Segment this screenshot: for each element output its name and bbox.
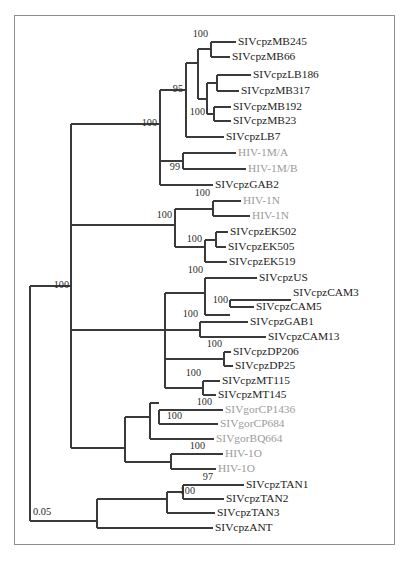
bootstrap-support-value: 100	[186, 367, 201, 378]
tip-label-layer: SIVcpzMB245SIVcpzMB66SIVcpzLB186SIVcpzMB…	[215, 35, 359, 533]
bootstrap-support-value: 100	[213, 294, 228, 305]
taxon-label: SIVcpzMB317	[241, 84, 310, 96]
taxon-label: SIVcpzEK502	[230, 225, 297, 237]
bootstrap-support-value: 100	[167, 410, 182, 421]
bootstrap-support-value: 100	[190, 106, 205, 117]
taxon-label: SIVcpzDP25	[235, 359, 295, 371]
taxon-label: SIVcpzTAN2	[226, 492, 289, 504]
bootstrap-support-value: 100	[188, 264, 203, 275]
bootstrap-support-value: 100	[190, 440, 205, 451]
taxon-label: SIVcpzANT	[215, 521, 273, 533]
bootstrap-support-value: 99	[170, 161, 180, 172]
taxon-label: SIVcpzCAM5	[256, 300, 322, 312]
bootstrap-support-value: 100	[157, 209, 172, 220]
bootstrap-support-value: 100	[195, 187, 210, 198]
bootstrap-support-value: 97	[203, 471, 213, 482]
taxon-label: SIVcpzGAB2	[215, 178, 279, 190]
taxon-label: SIVcpzMB23	[233, 114, 297, 126]
taxon-label: SIVcpzDP206	[233, 345, 299, 357]
taxon-label: SIVcpzTAN3	[217, 506, 280, 518]
taxon-label: SIVcpzCAM3	[293, 286, 359, 298]
tree-canvas: SIVcpzMB245SIVcpzMB66SIVcpzLB186SIVcpzMB…	[0, 0, 410, 561]
bootstrap-support-value: 100	[193, 28, 208, 39]
bootstrap-support-value: 95	[173, 83, 183, 94]
bootstrap-support-value: 100	[197, 396, 212, 407]
bootstrap-support-value: 100	[183, 308, 198, 319]
taxon-label: SIVcpzMT115	[222, 374, 290, 386]
taxon-label: SIVcpzMB192	[233, 100, 302, 112]
phylogenetic-tree-figure: SIVcpzMB245SIVcpzMB66SIVcpzLB186SIVcpzMB…	[0, 0, 410, 561]
taxon-label: HIV-1M/A	[238, 146, 289, 158]
taxon-label: SIVcpzMT145	[218, 388, 287, 400]
taxon-label: SIVcpzGAB1	[250, 315, 314, 327]
bootstrap-support-value: 100	[180, 485, 195, 496]
bootstrap-support-value: 100	[54, 279, 69, 290]
taxon-label: SIVgorCP684	[220, 417, 285, 429]
taxon-label: SIVcpzMB245	[238, 35, 307, 47]
scale-bar: 0.05	[30, 506, 70, 521]
bootstrap-support-value: 100	[142, 117, 157, 128]
taxon-label: SIVcpzLB186	[253, 68, 319, 80]
bootstrap-support-value: 100	[207, 338, 222, 349]
taxon-label: SIVcpzLB7	[226, 130, 281, 142]
taxon-label: SIVcpzEK519	[229, 255, 296, 267]
taxon-label: SIVcpzTAN1	[246, 478, 309, 490]
bootstrap-support-value: 100	[187, 233, 202, 244]
taxon-label: HIV-1N	[252, 209, 289, 221]
taxon-label: HIV-1M/B	[248, 162, 298, 174]
taxon-label: SIVcpzUS	[259, 271, 308, 283]
taxon-label: HIV-1O	[225, 447, 262, 459]
taxon-label: SIVgorCP1436	[225, 403, 296, 415]
taxon-label: HIV-1O	[218, 462, 255, 474]
taxon-label: SIVcpzCAM13	[268, 330, 340, 342]
taxon-label: HIV-1N	[243, 194, 280, 206]
taxon-label: SIVcpzEK505	[228, 240, 295, 252]
taxon-label: SIVgorBQ664	[216, 432, 283, 444]
taxon-label: SIVcpzMB66	[232, 50, 296, 62]
scale-bar-label: 0.05	[33, 506, 51, 517]
